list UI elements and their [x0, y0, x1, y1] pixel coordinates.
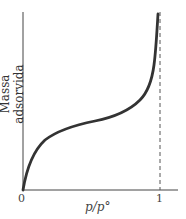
y-axis-label: Massa adsorvida: [0, 44, 26, 144]
isotherm-curve: [23, 14, 158, 190]
chart-canvas: [0, 0, 186, 219]
x-tick-0: 0: [18, 192, 25, 205]
x-axis-label: p/p°: [85, 200, 110, 214]
x-tick-1: 1: [156, 192, 163, 205]
